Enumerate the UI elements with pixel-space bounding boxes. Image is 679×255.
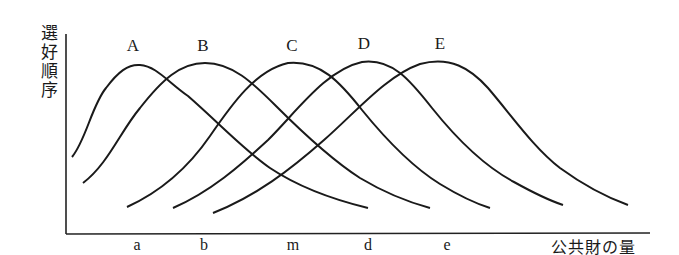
curve-e xyxy=(213,61,628,213)
preference-chart xyxy=(0,0,679,255)
x-tick-b: b xyxy=(200,236,208,254)
curve-label-a: A xyxy=(127,36,139,56)
curve-a xyxy=(72,65,368,208)
x-tick-d: d xyxy=(364,236,372,254)
x-tick-a: a xyxy=(133,236,140,254)
curve-label-d: D xyxy=(358,34,370,54)
curve-label-b: B xyxy=(197,36,208,56)
y-axis-label: 選好順序 xyxy=(38,24,60,100)
x-tick-m: m xyxy=(287,236,299,254)
x-tick-e: e xyxy=(443,236,450,254)
curve-label-e: E xyxy=(435,34,445,54)
x-axis-label: 公共財の量 xyxy=(551,234,636,255)
curve-b xyxy=(83,63,430,208)
curve-label-c: C xyxy=(286,36,297,56)
curve-c xyxy=(127,63,490,208)
